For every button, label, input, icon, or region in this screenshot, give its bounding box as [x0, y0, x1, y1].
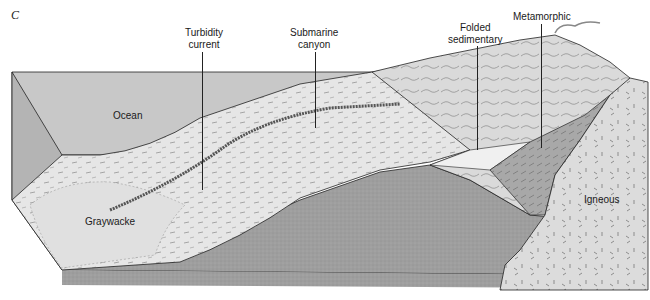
label-turbidity-current: Turbidity current: [185, 27, 223, 51]
volcano-plume: [555, 22, 600, 33]
leader-submarine-canyon: [315, 52, 316, 128]
label-submarine-canyon: Submarine canyon: [290, 27, 338, 51]
leader-folded-sedimentary: [477, 46, 478, 150]
label-graywacke: Graywacke: [85, 216, 135, 228]
leader-turbidity-current: [202, 52, 203, 190]
label-igneous: Igneous: [584, 194, 620, 206]
label-ocean: Ocean: [113, 110, 142, 122]
label-metamorphic: Metamorphic: [513, 11, 571, 23]
label-folded-sedimentary: Folded sedimentary: [448, 22, 502, 46]
panel-letter: C: [11, 8, 19, 23]
leader-metamorphic: [541, 24, 542, 148]
